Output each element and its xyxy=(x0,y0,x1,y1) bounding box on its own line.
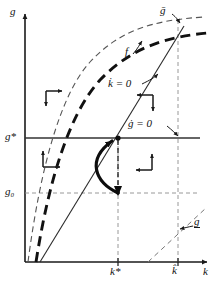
g-bar-label: ḡ xyxy=(160,5,166,16)
g-underbar-label: g xyxy=(194,216,200,228)
x-tick-label-khat: k̂ xyxy=(172,265,177,276)
phase-diagram-figure: g k g* g₀ k* k̂ ḡ f k̇ = 0 ġ = 0 g xyxy=(0,0,221,284)
gdot-zero-label: ġ = 0 xyxy=(128,118,152,129)
f-label: f xyxy=(125,46,128,57)
y-tick-label-g0: g₀ xyxy=(5,186,14,197)
kdot-zero-label: k̇ = 0 xyxy=(108,78,131,89)
quadrant-upper-left-arrows xyxy=(46,91,62,106)
x-axis-label: k xyxy=(203,266,208,277)
saddle-path-trajectory xyxy=(96,141,118,193)
steady-state-point xyxy=(115,135,120,140)
y-axis-label: g xyxy=(10,6,16,17)
y-tick-label-gstar: g* xyxy=(5,131,16,142)
diagram-canvas xyxy=(0,0,221,284)
quadrant-upper-right-arrows xyxy=(137,95,153,111)
x-tick-label-kstar: k* xyxy=(110,266,120,277)
kdot-zero-line xyxy=(40,26,184,262)
leader-g-underbar xyxy=(180,226,193,229)
f-curve xyxy=(36,33,208,262)
quadrant-lower-right-arrows xyxy=(136,154,152,170)
leader-g-bar xyxy=(172,14,180,23)
leader-gdot xyxy=(167,126,178,136)
